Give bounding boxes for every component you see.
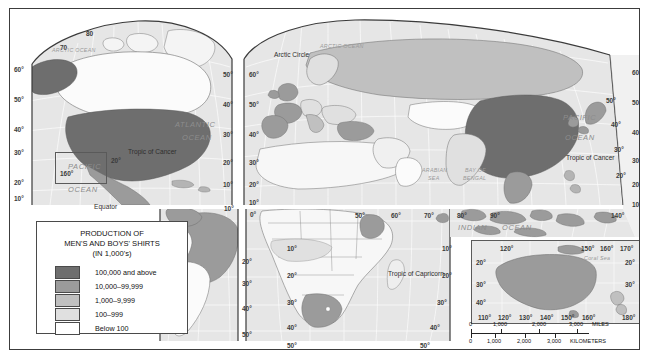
scale-km-unit: KILOMETERS [570, 338, 606, 344]
scale-miles-2000: 2,000 [532, 321, 546, 327]
map-legend: PRODUCTION OF MEN'S AND BOYS' SHIRTS (IN… [36, 221, 188, 334]
legend-row: 100,000 and above [55, 265, 187, 279]
scale-km-1000: 1,000 [487, 338, 501, 344]
scale-bar-graphic: 0 1,000 2,000 3,000 MILES 0 1,000 2,000 … [465, 327, 640, 338]
legend-title-line1: PRODUCTION OF [37, 229, 187, 239]
island-nz-south [616, 304, 627, 314]
scale-miles-unit: MILES [592, 321, 609, 327]
legend-swatch-4 [55, 308, 80, 321]
legend-label-3: 1,000–9,999 [95, 296, 135, 305]
map-figure: 80 70 60° 50° 40° 30° 20° 10° 160° 20° 6… [0, 0, 649, 359]
legend-label-5: Below 100 [95, 324, 129, 333]
region-maritime-southeast-asia [450, 209, 635, 237]
scale-km-2000: 2,000 [517, 338, 531, 344]
legend-title-line3: (IN 1,000's) [37, 249, 187, 259]
scale-miles-1000: 1,000 [493, 321, 507, 327]
legend-row: Below 100 [55, 321, 187, 335]
country-korea [568, 116, 579, 127]
lobe-africa [246, 209, 450, 341]
scale-miles-0: 0 [469, 321, 472, 327]
legend-title-line2: MEN'S AND BOYS' SHIRTS [37, 239, 187, 249]
hawaii-inset-box [55, 152, 107, 184]
map-frame: 80 70 60° 50° 40° 30° 20° 10° 160° 20° 6… [9, 8, 640, 350]
australia-inset: Coral Sea 120° 150° 160° 170° 20° 30° 40… [471, 240, 640, 324]
legend-label-2: 10,000–99,999 [95, 282, 143, 291]
lobe-eurasia [241, 20, 623, 205]
scale-miles-3000: 3,000 [569, 321, 583, 327]
island-tasmania [569, 310, 579, 317]
legend-row: 100–999 [55, 307, 187, 321]
scale-km-0: 0 [469, 338, 472, 344]
legend-rows: 100,000 and above 10,000–99,999 1,000–9,… [55, 265, 187, 335]
legend-label-4: 100–999 [95, 310, 123, 319]
scale-km-3000: 3,000 [547, 338, 561, 344]
legend-row: 1,000–9,999 [55, 293, 187, 307]
australia-inset-svg [472, 241, 640, 324]
legend-swatch-3 [55, 294, 80, 307]
legend-title: PRODUCTION OF MEN'S AND BOYS' SHIRTS (IN… [37, 229, 187, 259]
legend-swatch-2 [55, 280, 80, 293]
legend-label-1: 100,000 and above [95, 268, 157, 277]
legend-row: 10,000–99,999 [55, 279, 187, 293]
scale-bar: 0 1,000 2,000 3,000 MILES 0 1,000 2,000 … [465, 327, 640, 338]
legend-swatch-1 [55, 266, 80, 279]
legend-swatch-5 [55, 322, 80, 335]
